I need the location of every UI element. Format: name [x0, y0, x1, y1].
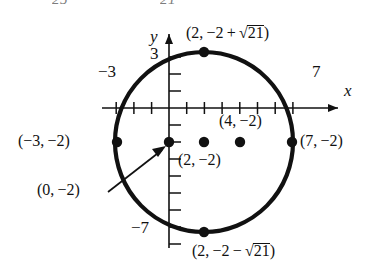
ellipse-figure: 25 21 — [0, 0, 381, 272]
label-top-vertex: (2, −2 + √21) — [186, 25, 269, 41]
point-right-vertex — [287, 137, 297, 147]
label-center-point: (2, −2) — [178, 152, 221, 168]
sqrt-icon-top: √21 — [239, 25, 264, 41]
label-focus-point: (4, −2) — [219, 113, 262, 129]
label-bottom-vertex-close: ) — [270, 242, 275, 259]
radical-bar-top — [247, 25, 264, 26]
y-tick-label-3: 3 — [150, 45, 159, 62]
point-focus — [235, 137, 245, 147]
x-axis-label: x — [344, 82, 352, 99]
sqrt-icon-bottom: √21 — [245, 243, 270, 259]
point-center — [199, 137, 209, 147]
label-left-vertex: (−3, −2) — [18, 133, 70, 149]
label-top-vertex-close: ) — [264, 24, 269, 41]
label-bottom-vertex-open: (2, −2 − — [192, 242, 245, 259]
radical-bar-bottom — [253, 243, 270, 244]
point-left-vertex — [112, 137, 122, 147]
x-tick-label-7: 7 — [312, 63, 321, 80]
label-y-intercept-point: (0, −2) — [37, 182, 80, 198]
point-y-intercept — [164, 137, 174, 147]
point-bottom-vertex — [199, 227, 209, 237]
label-bottom-vertex-radicand: 21 — [254, 242, 270, 259]
label-top-vertex-open: (2, −2 + — [186, 24, 239, 41]
y-axis-label: y — [150, 28, 158, 45]
x-axis — [102, 104, 338, 112]
x-tick-label-neg3: −3 — [98, 63, 116, 80]
label-right-vertex: (7, −2) — [300, 133, 343, 149]
y-tick-label-neg7: −7 — [131, 219, 149, 236]
label-top-vertex-radicand: 21 — [248, 24, 264, 41]
point-top-vertex — [199, 47, 209, 57]
label-bottom-vertex: (2, −2 − √21) — [192, 243, 275, 259]
